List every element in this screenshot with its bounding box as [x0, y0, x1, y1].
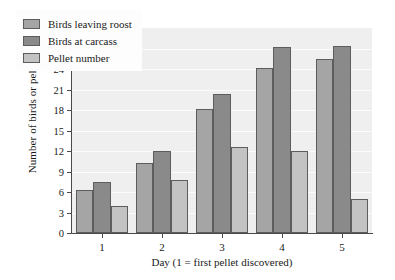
y-axis-tick-label: 12 — [54, 146, 65, 157]
legend-swatch-icon — [23, 53, 40, 63]
legend-swatch-icon — [23, 19, 40, 29]
y-axis-tick — [67, 213, 72, 214]
bar — [196, 109, 214, 233]
y-axis-tick-label: 6 — [59, 187, 64, 198]
x-axis-tick-label: 5 — [339, 241, 345, 253]
legend-item: Birds leaving roost — [23, 15, 132, 32]
y-axis-tick — [67, 131, 72, 132]
x-axis-tick — [342, 233, 343, 238]
y-axis-tick-label: 18 — [54, 105, 65, 116]
x-axis-tick — [162, 233, 163, 238]
bar — [291, 151, 309, 233]
y-axis-tick — [67, 192, 72, 193]
x-axis-tick-label: 2 — [159, 241, 165, 253]
y-axis-tick-label: 9 — [59, 166, 64, 177]
y-axis-tick — [67, 110, 72, 111]
y-axis-tick — [67, 233, 72, 234]
x-axis-tick — [282, 233, 283, 238]
bar — [333, 46, 351, 233]
legend-label: Birds at carcass — [48, 35, 117, 47]
x-axis-title: Day (1 = first pellet discovered) — [72, 256, 372, 268]
legend-label: Birds leaving roost — [48, 18, 132, 30]
chart-legend: Birds leaving roostBirds at carcassPelle… — [16, 10, 142, 71]
x-axis-tick-label: 1 — [99, 241, 105, 253]
bar — [171, 180, 189, 233]
x-axis-tick — [222, 233, 223, 238]
y-axis-tick-label: 0 — [59, 228, 64, 239]
y-axis-tick-label: 3 — [59, 207, 64, 218]
legend-label: Pellet number — [48, 52, 109, 64]
x-axis-tick-label: 4 — [279, 241, 285, 253]
bar — [111, 206, 129, 233]
legend-swatch-icon — [23, 36, 40, 46]
bar — [153, 151, 171, 233]
bar — [93, 182, 111, 233]
x-axis-tick-label: 3 — [219, 241, 225, 253]
y-axis-tick — [67, 90, 72, 91]
bar — [76, 190, 94, 233]
y-axis-tick-label: 21 — [54, 84, 65, 95]
y-axis-tick — [67, 172, 72, 173]
y-axis-tick — [67, 151, 72, 152]
y-axis-tick-label: 15 — [54, 125, 65, 136]
bar — [213, 94, 231, 233]
legend-item: Pellet number — [23, 49, 132, 66]
legend-item: Birds at carcass — [23, 32, 132, 49]
bar — [351, 199, 369, 233]
bar — [136, 163, 154, 233]
x-axis-tick — [102, 233, 103, 238]
bar — [316, 59, 334, 233]
bar — [273, 47, 291, 233]
bar — [231, 147, 249, 233]
bar-chart-figure: Number of birds or pellets 0369121518212… — [0, 0, 395, 280]
bar — [256, 68, 274, 233]
